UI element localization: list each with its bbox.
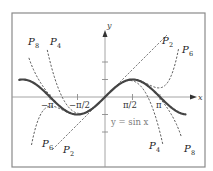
- p2-bottom-letter: P: [62, 144, 70, 155]
- y-axis-label: y: [106, 21, 112, 30]
- p6-top-sub: 6: [189, 50, 193, 58]
- taylor-polynomials-chart: x y −π −π/2 π/2 π y = sin x P 8 P 4 P 2 …: [0, 0, 213, 171]
- p8-top-letter: P: [27, 36, 35, 47]
- p8-top-sub: 8: [35, 42, 39, 50]
- p8-bottom-sub: 8: [191, 149, 195, 157]
- p4-top-letter: P: [49, 36, 57, 47]
- p4-bottom-sub: 4: [156, 146, 160, 154]
- p4-bottom-letter: P: [148, 140, 156, 151]
- p6-bottom-sub: 6: [49, 144, 53, 152]
- tick-label-half-pi: π/2: [123, 100, 137, 110]
- tick-label-pi: π: [156, 100, 162, 110]
- plot-frame: [12, 13, 205, 167]
- tick-label-neg-half-pi: −π/2: [69, 100, 90, 110]
- p4-top-sub: 4: [57, 42, 61, 50]
- x-axis-label: x: [198, 93, 203, 102]
- sine-equation-label: y = sin x: [110, 117, 149, 127]
- p6-top-letter: P: [181, 44, 189, 55]
- p2-bottom-sub: 2: [70, 150, 74, 158]
- p8-bottom-letter: P: [183, 143, 191, 154]
- tick-label-neg-pi: −π: [41, 100, 54, 110]
- p2-top-letter: P: [161, 35, 169, 46]
- p6-bottom-letter: P: [41, 138, 49, 149]
- p2-top-sub: 2: [169, 41, 173, 49]
